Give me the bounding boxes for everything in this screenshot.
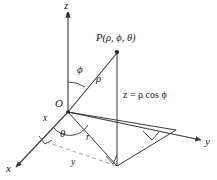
base-plane-top-edge [68, 112, 176, 130]
z-axis-label: z [64, 0, 68, 11]
right-angle-mark-base-plane [143, 131, 159, 140]
phi-label: ϕ [77, 64, 83, 75]
diagram-canvas [0, 0, 217, 180]
z-height-label: z = ρ cos ϕ [123, 90, 167, 100]
point-p-label: P(ρ, ϕ, θ) [96, 33, 136, 44]
z-axis-tip-dot [66, 12, 69, 15]
base-plane-right-edge [117, 130, 176, 166]
y-axis-label: y [205, 136, 210, 147]
spherical-coordinates-figure: z y x O P(ρ, ϕ, θ) ρ ϕ θ r z = ρ cos ϕ x… [0, 0, 217, 180]
x-segment-label: x [43, 114, 47, 124]
point-p-dot [115, 50, 119, 54]
theta-label: θ [60, 128, 65, 139]
theta-angle-arc [53, 125, 88, 135]
base-plane [68, 112, 176, 166]
y-segment-label: y [71, 158, 75, 168]
r-label: r [86, 133, 90, 143]
origin-dot [66, 110, 70, 114]
origin-label: O [55, 98, 63, 109]
phi-angle-arc [68, 82, 85, 87]
x-axis-label: x [6, 163, 11, 174]
rho-label: ρ [96, 73, 101, 84]
